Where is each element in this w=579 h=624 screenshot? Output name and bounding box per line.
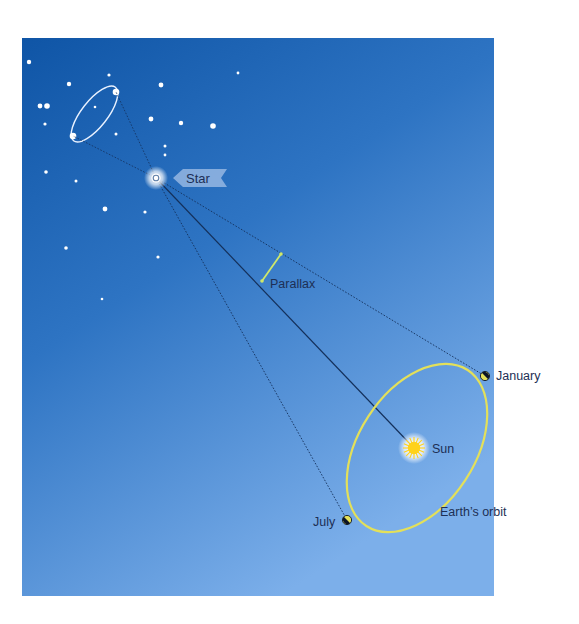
background-star-icon bbox=[164, 145, 167, 148]
background-star-icon bbox=[101, 298, 104, 301]
january-label: January bbox=[496, 369, 541, 383]
star-label-tag: Star bbox=[173, 169, 227, 187]
background-star-icon bbox=[103, 207, 108, 212]
background-star-icon bbox=[64, 246, 68, 250]
background-star-icon bbox=[143, 210, 146, 213]
background-star-icon bbox=[43, 122, 46, 125]
earth-july-icon bbox=[342, 515, 351, 524]
background-star-icon bbox=[237, 72, 240, 75]
background-star-icon bbox=[44, 170, 48, 174]
background-star-icon bbox=[149, 117, 154, 122]
apparent-position-july bbox=[113, 89, 120, 96]
background-star-icon bbox=[210, 123, 216, 129]
background-star-icon bbox=[107, 73, 110, 76]
july-label: July bbox=[313, 515, 336, 529]
background-star-icon bbox=[38, 104, 43, 109]
parallax-diagram: Parallax Star Sun January bbox=[0, 0, 579, 624]
background-star-icon bbox=[159, 83, 164, 88]
earth-orbit-label: Earth’s orbit bbox=[440, 505, 507, 519]
background-star-icon bbox=[115, 133, 118, 136]
background-star-icon bbox=[67, 82, 71, 86]
background-star-icon bbox=[44, 103, 50, 109]
background-star-icon bbox=[164, 154, 167, 157]
target-star-icon bbox=[144, 166, 168, 190]
sky-background bbox=[22, 38, 494, 596]
earth-january-icon bbox=[480, 371, 489, 380]
parallax-label: Parallax bbox=[270, 277, 316, 291]
sun-icon bbox=[398, 432, 430, 464]
background-star-icon bbox=[75, 180, 78, 183]
background-star-icon bbox=[94, 106, 97, 109]
background-star-icon bbox=[27, 60, 31, 64]
background-star-icon bbox=[156, 255, 159, 258]
sun-label: Sun bbox=[432, 442, 454, 456]
star-label: Star bbox=[186, 171, 211, 186]
background-star-icon bbox=[179, 121, 183, 125]
